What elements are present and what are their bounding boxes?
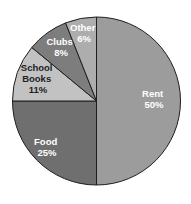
pie-slice-rent: [97, 17, 181, 185]
slice-label-rent: Rent 50%: [142, 88, 166, 110]
pie-chart: Rent 50% Food 25% School Books 11% Clubs…: [0, 0, 191, 204]
slice-label-food: Food 25%: [34, 136, 60, 158]
